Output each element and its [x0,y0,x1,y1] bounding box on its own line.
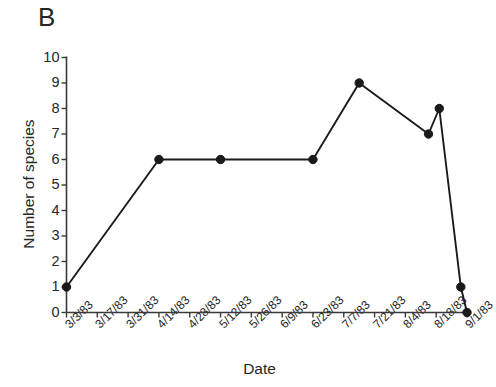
data-point-marker [463,308,471,316]
data-series-line [67,83,468,313]
data-point-marker [457,283,465,291]
data-point-marker [355,79,363,87]
data-point-marker [435,104,443,112]
data-point-marker [155,155,163,163]
data-point-marker [424,130,432,138]
data-point-markers [62,79,471,317]
data-point-marker [309,155,317,163]
axes [67,57,472,313]
data-point-marker [216,155,224,163]
data-point-marker [62,283,70,291]
series-line [67,83,468,313]
